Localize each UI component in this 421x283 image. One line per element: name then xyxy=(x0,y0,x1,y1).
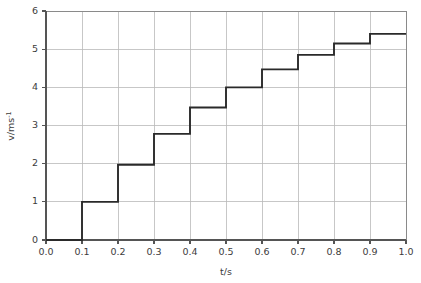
x-axis-title: t/s xyxy=(220,266,232,277)
x-tick-label-0.6: 0.6 xyxy=(254,246,269,257)
x-tick-label-0.3: 0.3 xyxy=(146,246,161,257)
x-tick-label-0.2: 0.2 xyxy=(110,246,125,257)
x-tick-label-0.7: 0.7 xyxy=(290,246,305,257)
x-tick-label-1.0: 1.0 xyxy=(398,246,413,257)
y-tick-label-3: 3 xyxy=(32,119,38,130)
velocity-time-chart: 0123456 0.00.10.20.30.40.50.60.70.80.91.… xyxy=(0,0,421,283)
y-axis-title-base: v/ms xyxy=(5,118,16,141)
y-tick-label-0: 0 xyxy=(32,234,38,245)
y-axis-title-exponent: -1 xyxy=(5,111,13,118)
x-tick-label-0.5: 0.5 xyxy=(218,246,233,257)
y-tick-label-1: 1 xyxy=(32,195,38,206)
x-tick-label-0.9: 0.9 xyxy=(362,246,377,257)
y-tick-label-4: 4 xyxy=(32,81,38,92)
y-tick-label-6: 6 xyxy=(32,5,38,16)
x-tick-label-0.8: 0.8 xyxy=(326,246,341,257)
chart-canvas: 0123456 0.00.10.20.30.40.50.60.70.80.91.… xyxy=(0,0,421,283)
x-tick-label-0.0: 0.0 xyxy=(38,246,53,257)
y-tick-label-5: 5 xyxy=(32,43,38,54)
x-tick-label-0.1: 0.1 xyxy=(74,246,89,257)
y-tick-label-2: 2 xyxy=(32,157,38,168)
x-tick-label-0.4: 0.4 xyxy=(182,246,197,257)
